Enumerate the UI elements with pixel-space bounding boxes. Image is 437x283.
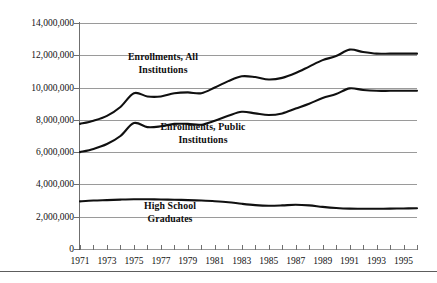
y-axis-tick-mark [74,23,79,24]
x-axis-tick-mark [309,245,310,250]
x-axis-tick-mark [228,245,229,250]
y-axis-tick-label: 2,000,000 [0,212,74,222]
y-axis-tick-mark [74,88,79,89]
x-axis-tick-label: 1973 [92,255,122,267]
x-axis-tick-mark [255,245,256,250]
x-axis-tick-label: 1983 [227,255,257,267]
x-axis-tick-label: 1971 [65,255,95,267]
x-axis-tick-mark [296,245,297,250]
figure-caption [56,274,416,283]
series-label-high-school-graduates-line2: Graduates [118,213,222,226]
x-axis-tick-mark [188,245,189,250]
x-axis-tick-mark [161,245,162,250]
x-axis-tick-label: 1977 [146,255,176,267]
y-axis-tick-mark [74,152,79,153]
x-axis-tick-label: 1975 [119,255,149,267]
x-axis-tick-mark [336,245,337,250]
x-axis-tick-mark [147,245,148,250]
x-axis-tick-mark [201,245,202,250]
x-axis-tick-label: 1993 [362,255,392,267]
x-axis-tick-label: 1981 [200,255,230,267]
x-axis-tick-mark [215,245,216,250]
gridline [80,249,417,250]
series-label-high-school-graduates-line1: High School [118,200,222,213]
x-axis-tick-mark [390,245,391,250]
x-axis-tick-label: 1995 [389,255,419,267]
y-axis-tick-label: 10,000,000 [0,83,74,93]
y-axis-tick-label: 8,000,000 [0,115,74,125]
y-axis-tick-label: 4,000,000 [0,179,74,189]
x-axis-tick-mark [107,245,108,250]
y-axis-tick-label: 14,000,000 [0,18,74,28]
series-label-public-institutions-line1: Enrollments, Public [138,121,268,134]
series-label-public-institutions: Enrollments, Public Institutions [138,121,268,146]
x-axis-tick-label: 1989 [308,255,338,267]
gridline [80,88,417,89]
chart-figure: 14,000,00012,000,00010,000,0008,000,0006… [0,0,437,283]
x-axis-tick-mark [363,245,364,250]
gridline [80,152,417,153]
x-axis-tick-mark [174,245,175,250]
x-axis-tick-mark [242,245,243,250]
x-axis-tick-label: 1987 [281,255,311,267]
x-axis-tick-mark [269,245,270,250]
x-axis-tick-mark [120,245,121,250]
x-axis-tick-mark [80,245,81,250]
y-axis-tick-mark [74,120,79,121]
x-axis-tick-mark [323,245,324,250]
series-label-public-institutions-line2: Institutions [138,134,268,147]
x-axis-tick-labels: 1971197319751977197919811983198519871989… [0,255,437,271]
x-axis-tick-mark [417,245,418,250]
x-axis-tick-mark [282,245,283,250]
series-label-high-school-graduates: High School Graduates [118,200,222,225]
x-axis-tick-mark [134,245,135,250]
x-axis-tick-mark [377,245,378,250]
footer-divider [0,271,437,272]
y-axis-tick-label: 0 [0,244,74,254]
y-axis-tick-mark [74,55,79,56]
y-axis-tick-mark [74,217,79,218]
series-label-all-institutions: Enrollments, All Institutions [103,51,223,76]
x-axis-tick-label: 1991 [335,255,365,267]
x-axis-tick-mark [404,245,405,250]
y-axis-tick-label: 6,000,000 [0,147,74,157]
gridline [80,184,417,185]
gridline [80,23,417,24]
y-axis-tick-mark [74,249,79,250]
series-label-all-institutions-line1: Enrollments, All [103,51,223,64]
series-label-all-institutions-line2: Institutions [103,64,223,77]
y-axis-tick-mark [74,184,79,185]
x-axis-tick-label: 1985 [254,255,284,267]
y-axis-tick-label: 12,000,000 [0,50,74,60]
x-axis-tick-mark [350,245,351,250]
x-axis-tick-label: 1979 [173,255,203,267]
x-axis-tick-mark [93,245,94,250]
